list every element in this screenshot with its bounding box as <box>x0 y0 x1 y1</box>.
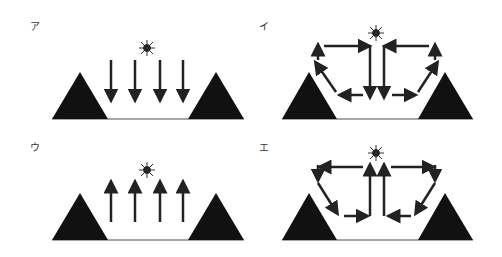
sun-icon <box>368 145 384 161</box>
panel-e: エ <box>251 121 502 249</box>
mountain-icon <box>52 193 108 240</box>
mountain-icon <box>418 193 473 240</box>
sun-icon <box>368 25 384 41</box>
mountain-icon <box>52 72 108 119</box>
valley-diagram-circulation-up <box>251 121 502 249</box>
panel-u: ウ <box>0 121 251 249</box>
valley-diagram-circulation-down <box>251 0 502 128</box>
panel-i: イ <box>251 0 502 128</box>
panel-a: ア <box>0 0 251 128</box>
mountain-icon <box>282 72 337 119</box>
valley-diagram-downward <box>0 0 251 128</box>
valley-diagram-upward <box>0 121 251 249</box>
sun-icon <box>139 40 155 56</box>
arrow-icon <box>318 45 435 95</box>
mountain-icon <box>188 72 244 119</box>
mountain-icon <box>188 193 244 240</box>
arrow-icon <box>111 60 183 96</box>
sun-icon <box>139 162 155 178</box>
arrow-icon <box>111 186 183 222</box>
arrow-icon <box>318 165 435 216</box>
